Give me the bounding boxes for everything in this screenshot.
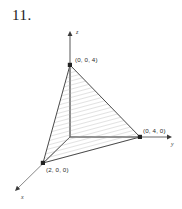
- point-label-x-intercept: (2, 0, 0): [46, 166, 69, 173]
- shaded-triangle: [43, 65, 140, 163]
- coordinate-plot: z y x (0, 0, 4) (0, 4, 0) (2, 0, 0): [0, 0, 182, 209]
- figure-container: 11. z: [0, 0, 182, 209]
- x-axis-label: x: [20, 194, 24, 200]
- point-label-z-intercept: (0, 0, 4): [75, 56, 98, 63]
- vertex-marker-x: [41, 161, 45, 165]
- y-axis-label: y: [170, 141, 174, 147]
- vertex-marker-y: [138, 135, 142, 139]
- point-label-y-intercept: (0, 4, 0): [143, 127, 166, 134]
- z-axis-label: z: [75, 29, 79, 35]
- vertex-marker-z: [68, 63, 72, 67]
